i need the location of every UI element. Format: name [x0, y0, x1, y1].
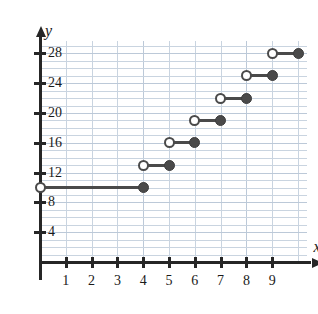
- y-axis-tick-label: 8: [48, 195, 68, 209]
- closed-endpoint-marker: [267, 70, 278, 81]
- grid-line-horizontal: [40, 120, 307, 121]
- grid-line-horizontal: [40, 91, 307, 92]
- y-axis-tick: [34, 172, 46, 175]
- grid-line-horizontal: [40, 180, 307, 181]
- grid-line-horizontal: [40, 240, 307, 241]
- x-axis-tick: [168, 257, 171, 268]
- y-axis-tick-label: 20: [48, 106, 68, 120]
- y-axis-tick-label: 24: [48, 76, 68, 90]
- y-axis-tick: [34, 112, 46, 115]
- x-axis-tick: [91, 257, 94, 268]
- y-axis-line: [39, 37, 42, 280]
- open-endpoint-marker: [267, 48, 278, 59]
- x-axis-tick-label: 3: [107, 274, 127, 288]
- x-axis-arrow-icon: [312, 258, 318, 268]
- x-axis-tick: [65, 257, 68, 268]
- x-axis-tick: [245, 257, 248, 268]
- y-axis-tick: [34, 231, 46, 234]
- grid-line-horizontal: [40, 46, 307, 47]
- grid-line-horizontal: [40, 202, 307, 203]
- open-endpoint-marker: [35, 182, 46, 193]
- y-axis-tick: [34, 82, 46, 85]
- x-axis-tick-label: 6: [185, 274, 205, 288]
- closed-endpoint-marker: [164, 160, 175, 171]
- x-axis-label: x: [313, 238, 318, 256]
- grid-line-horizontal: [40, 68, 307, 69]
- grid-line-horizontal: [40, 210, 307, 211]
- y-axis-tick-label: 4: [48, 225, 68, 239]
- grid-line-horizontal: [40, 128, 307, 129]
- x-axis-tick: [271, 257, 274, 268]
- grid-line-vertical: [143, 41, 144, 262]
- grid-line-horizontal: [40, 150, 307, 151]
- grid-line-horizontal: [40, 113, 307, 114]
- grid-line-vertical: [195, 41, 196, 262]
- grid-line-horizontal: [40, 232, 307, 233]
- grid-line-horizontal: [40, 255, 307, 256]
- y-axis-tick: [34, 142, 46, 145]
- closed-endpoint-marker: [138, 182, 149, 193]
- closed-endpoint-marker: [293, 48, 304, 59]
- x-axis-tick-label: 7: [211, 274, 231, 288]
- y-axis-tick-label: 28: [48, 46, 68, 60]
- y-axis-label: y: [45, 22, 52, 40]
- x-axis-tick: [220, 257, 223, 268]
- grid-line-horizontal: [40, 135, 307, 136]
- grid-line-horizontal: [40, 61, 307, 62]
- grid-line-horizontal: [40, 173, 307, 174]
- x-axis-tick-label: 1: [56, 274, 76, 288]
- step-function-chart: y x 481216202428123456789: [0, 0, 318, 314]
- x-axis-tick-label: 4: [133, 274, 153, 288]
- x-axis-tick-label: 8: [236, 274, 256, 288]
- step-segment: [40, 186, 143, 189]
- x-axis-tick-label: 2: [82, 274, 102, 288]
- x-axis-tick: [194, 257, 197, 268]
- x-axis-tick: [142, 257, 145, 268]
- grid-line-horizontal: [40, 98, 307, 99]
- x-axis-tick: [116, 257, 119, 268]
- grid-line-horizontal: [40, 106, 307, 107]
- open-endpoint-marker: [241, 70, 252, 81]
- open-endpoint-marker: [138, 160, 149, 171]
- grid-line-horizontal: [40, 83, 307, 84]
- open-endpoint-marker: [215, 93, 226, 104]
- grid-line-horizontal: [40, 158, 307, 159]
- open-endpoint-marker: [189, 115, 200, 126]
- grid-line-horizontal: [40, 247, 307, 248]
- open-endpoint-marker: [164, 137, 175, 148]
- closed-endpoint-marker: [215, 115, 226, 126]
- closed-endpoint-marker: [189, 137, 200, 148]
- x-axis-tick-label: 9: [262, 274, 282, 288]
- y-axis-tick-label: 12: [48, 166, 68, 180]
- grid-line-vertical: [117, 41, 118, 262]
- grid-line-horizontal: [40, 225, 307, 226]
- y-axis-tick-label: 16: [48, 136, 68, 150]
- closed-endpoint-marker: [241, 93, 252, 104]
- grid-line-vertical: [298, 41, 299, 262]
- x-axis-tick-label: 5: [159, 274, 179, 288]
- y-axis-tick: [34, 52, 46, 55]
- grid-line-horizontal: [40, 195, 307, 196]
- grid-line-horizontal: [40, 217, 307, 218]
- grid-line-vertical: [92, 41, 93, 262]
- grid-line-vertical: [221, 41, 222, 262]
- y-axis-tick: [34, 201, 46, 204]
- grid-line-vertical: [169, 41, 170, 262]
